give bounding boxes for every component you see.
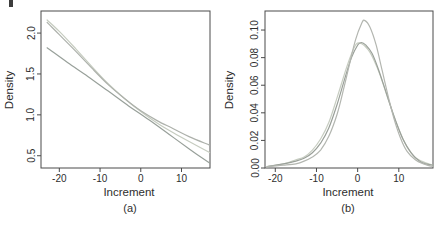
series-straight-line [47, 48, 210, 163]
x-tick-label: 0 [355, 173, 361, 184]
y-tick-label: 0.10 [250, 20, 261, 40]
curves-b [267, 20, 433, 167]
x-axis-label-a: Increment [103, 186, 155, 198]
y-tick-label: 0.04 [250, 103, 261, 123]
density-figure: -20-100100.51.01.52.0 Density Increment … [0, 0, 447, 227]
plot-area-border-a [41, 11, 210, 168]
x-tick-label: 10 [176, 173, 188, 184]
y-axis-label-a: Density [3, 71, 15, 110]
axes-b: -20-100100.000.020.040.060.080.10 [250, 20, 405, 184]
x-tick-label: -10 [93, 173, 108, 184]
x-tick-label: -10 [309, 173, 324, 184]
y-tick-label: 1.5 [26, 67, 37, 81]
panel-caption-b: (b) [341, 202, 354, 214]
y-tick-label: 0.02 [250, 130, 261, 150]
series-curve-gray [47, 22, 210, 145]
y-tick-label: 0.06 [250, 75, 261, 95]
y-tick-label: 1.0 [26, 107, 37, 121]
y-tick-label: 0.08 [250, 47, 261, 67]
x-tick-label: -20 [268, 173, 283, 184]
curves-a [47, 20, 210, 163]
panel-b: -20-100100.000.020.040.060.080.10 Densit… [223, 11, 433, 214]
series-curve-light [47, 20, 210, 153]
series-narrow-tall-curve [267, 20, 433, 167]
x-axis-label-b: Increment [322, 186, 374, 198]
panel-a: -20-100100.51.01.52.0 Density Increment … [3, 11, 210, 214]
x-tick-label: 10 [393, 173, 405, 184]
panel-caption-a: (a) [123, 202, 136, 214]
x-tick-label: -20 [52, 173, 67, 184]
page-edge-artifact [9, 0, 13, 7]
y-tick-label: 0.00 [250, 158, 261, 178]
plot-area-border-b [265, 11, 433, 168]
y-axis-label-b: Density [223, 71, 235, 110]
x-tick-label: 0 [138, 173, 144, 184]
figure-canvas: -20-100100.51.01.52.0 Density Increment … [0, 0, 447, 227]
y-tick-label: 0.5 [26, 148, 37, 162]
y-tick-label: 2.0 [26, 26, 37, 40]
